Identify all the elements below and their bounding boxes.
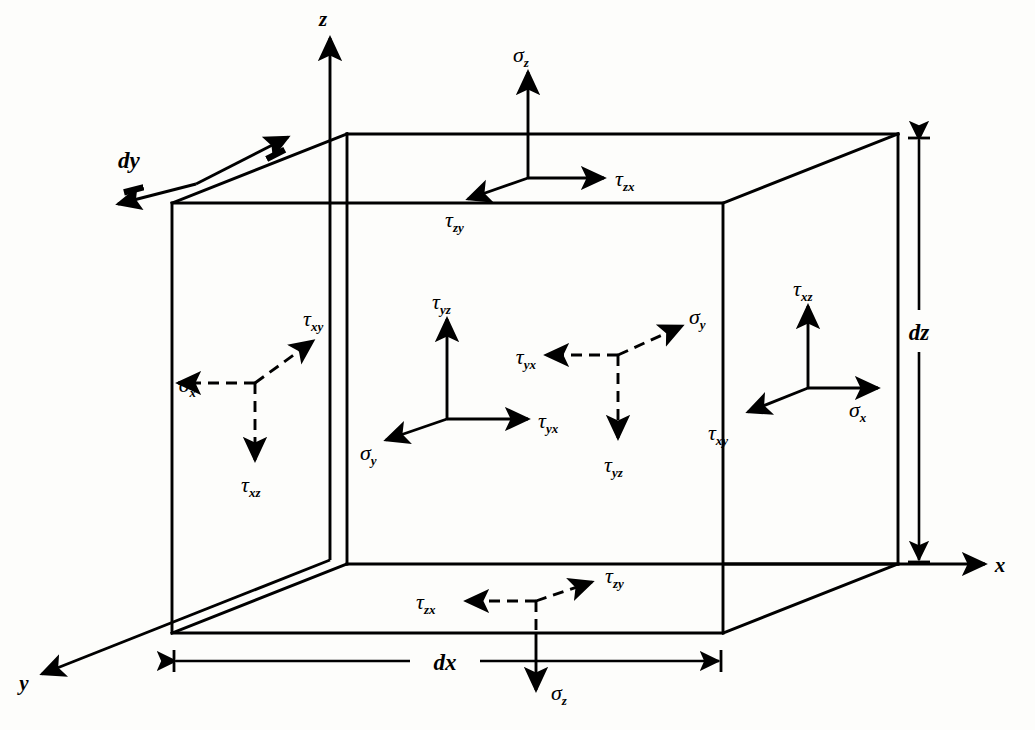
top-face-tau-zy-arrow — [468, 178, 528, 199]
front-face-sigma-y-label: σy — [360, 440, 377, 468]
dimension-dz — [908, 138, 930, 562]
top-face-sigma-z-label: σz — [513, 42, 530, 70]
left-face-sigma-x-label: σx — [179, 372, 197, 400]
cube-depth-edge-top-left — [172, 134, 347, 203]
bottom-face-sigma-z-label: σz — [551, 680, 568, 708]
axis-label-x: x — [994, 553, 1006, 577]
right-face-tau-xy-label: τxy — [708, 420, 728, 448]
dimension-dy — [118, 137, 288, 204]
front-face-stress-group — [386, 319, 528, 440]
left-face-tau-xy-arrow — [255, 341, 313, 383]
left-face-stress-group — [178, 341, 313, 460]
front-face-sigma-y-arrow — [386, 419, 447, 440]
back-face-stress-group — [546, 326, 682, 438]
cube-depth-edge-bottom-left — [172, 564, 347, 633]
bottom-face-tau-zy-label: τzy — [605, 563, 624, 591]
stress-element-figure: z x y dy dx dz — [0, 0, 1035, 730]
dimension-label-dy: dy — [118, 148, 141, 173]
axis-label-y: y — [16, 671, 29, 695]
left-face-tau-xz-label: τxz — [241, 472, 261, 500]
right-face-sigma-x-label: σx — [849, 397, 867, 425]
cube-depth-edge-top-right — [723, 134, 898, 203]
figure-canvas: z x y dy dx dz — [0, 0, 1035, 730]
dimension-label-dz: dz — [909, 320, 930, 345]
bottom-face-stress-group — [466, 582, 592, 633]
bottom-face-tau-zy-arrow — [536, 582, 592, 601]
cube-wireframe — [172, 134, 898, 633]
top-face-tau-zx-label: τzx — [615, 166, 635, 194]
right-face-tau-xy-arrow — [748, 388, 808, 412]
top-face-stress-group — [468, 72, 604, 199]
y-axis-line — [42, 560, 330, 674]
front-face-tau-yz-label: τyz — [432, 289, 452, 317]
right-face-tau-xz-label: τxz — [793, 276, 813, 304]
dim-dy-arrow-lower — [118, 184, 196, 204]
axis-label-z: z — [318, 7, 328, 31]
back-face-sigma-y-arrow — [618, 326, 682, 355]
back-face-tau-yz-label: τyz — [604, 452, 624, 480]
front-face-tau-yx-label: τyx — [538, 408, 559, 436]
left-face-tau-xy-label: τxy — [303, 306, 323, 334]
back-face-sigma-y-label: σy — [689, 304, 706, 332]
back-face-tau-yx-label: τyx — [516, 344, 537, 372]
dimension-label-dx: dx — [434, 650, 457, 675]
top-face-tau-zy-label: τzy — [445, 207, 464, 235]
cube-depth-edge-bottom-right — [723, 564, 898, 633]
bottom-face-tau-zx-label: τzx — [416, 589, 436, 617]
